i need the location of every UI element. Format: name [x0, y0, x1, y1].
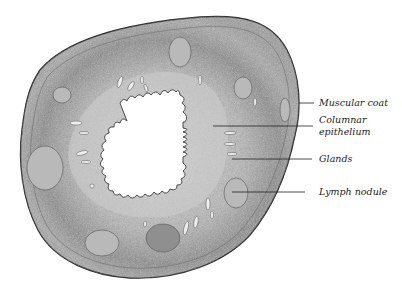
- gland: [224, 132, 236, 135]
- gland: [90, 184, 94, 188]
- lymph-nodule: [85, 230, 119, 256]
- gland: [224, 143, 236, 146]
- lymph-nodule: [169, 37, 191, 67]
- lymph-nodule: [27, 146, 63, 190]
- gland: [254, 98, 257, 106]
- gland: [144, 221, 147, 227]
- label-glands: Glands: [319, 153, 352, 164]
- lymph-nodule: [234, 77, 252, 99]
- lymph-nodule: [146, 224, 180, 252]
- appendix-cross-section-diagram: Muscular coat Columnar epithelium Glands…: [0, 0, 402, 294]
- label-muscular-coat: Muscular coat: [318, 97, 388, 108]
- label-lymph-nodule: Lymph nodule: [318, 186, 388, 197]
- lymph-nodule: [53, 87, 71, 103]
- gland: [211, 211, 214, 219]
- gland: [199, 75, 202, 85]
- gland: [79, 132, 89, 135]
- lymph-nodule: [280, 98, 290, 122]
- gland: [141, 76, 144, 84]
- label-columnar-epithelium-line2: epithelium: [319, 126, 371, 137]
- label-columnar-epithelium-line1: Columnar: [319, 114, 368, 125]
- gland: [206, 198, 210, 210]
- lymph-nodule: [224, 178, 248, 208]
- gland: [81, 161, 91, 164]
- gland: [227, 153, 237, 156]
- gland: [70, 121, 82, 125]
